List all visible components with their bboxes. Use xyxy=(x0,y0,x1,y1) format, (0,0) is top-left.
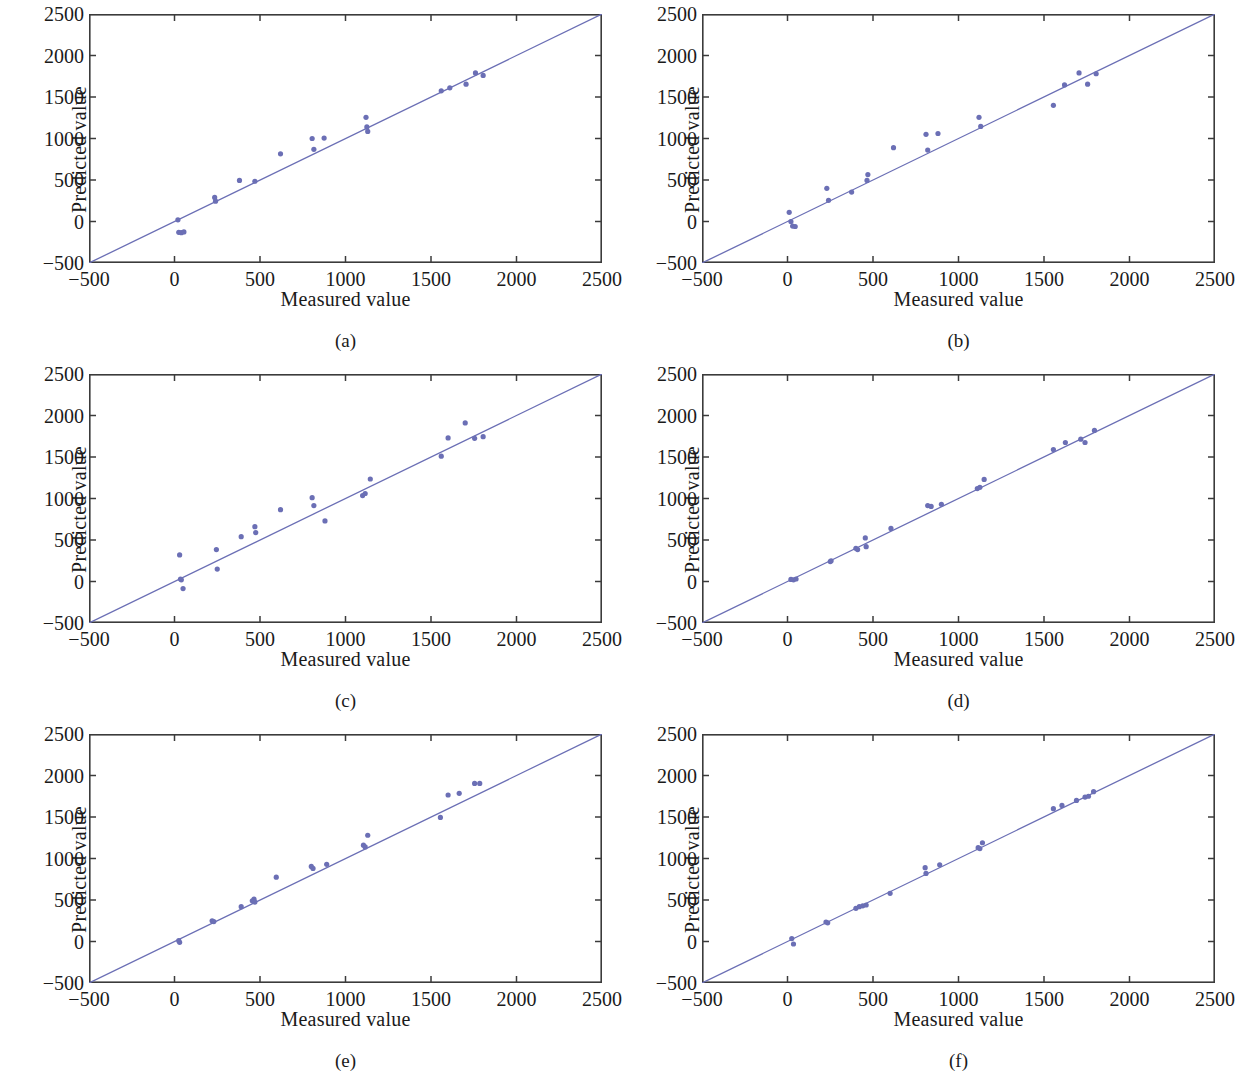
data-point xyxy=(324,862,329,867)
data-point xyxy=(1051,447,1056,452)
data-point xyxy=(211,919,216,924)
data-point xyxy=(937,862,942,867)
data-point xyxy=(457,791,462,796)
plot-area-b xyxy=(702,14,1215,263)
y-tick-label: 0 xyxy=(74,570,84,593)
y-tick-label: 1500 xyxy=(44,806,84,829)
data-point xyxy=(473,70,478,75)
data-point xyxy=(481,434,486,439)
y-tick-label: 2500 xyxy=(44,723,84,746)
y-tick-label: 1500 xyxy=(657,806,697,829)
y-tick-label: 1500 xyxy=(657,86,697,109)
plot-area-d xyxy=(702,374,1215,623)
panel-caption-c: (c) xyxy=(89,690,602,712)
x-axis-label-c: Measured value xyxy=(89,648,602,671)
data-point xyxy=(929,504,934,509)
y-tick-label: 2000 xyxy=(657,44,697,67)
data-point xyxy=(472,436,477,441)
y-tick-label: 500 xyxy=(667,529,697,552)
data-point xyxy=(864,544,869,549)
y-tick-label: 1000 xyxy=(44,847,84,870)
y-tick-labels-b: 25002000150010005000−500 xyxy=(613,14,697,263)
y-tick-labels-e: 25002000150010005000−500 xyxy=(0,734,84,983)
y-tick-label: 1000 xyxy=(657,847,697,870)
data-point xyxy=(447,85,452,90)
data-point xyxy=(788,219,793,224)
identity-reference-line xyxy=(702,14,1215,263)
data-point xyxy=(1062,82,1067,87)
data-point xyxy=(855,547,860,552)
data-point xyxy=(787,210,792,215)
data-point xyxy=(864,902,869,907)
data-point xyxy=(977,485,982,490)
data-point xyxy=(793,224,798,229)
y-tick-labels-d: 25002000150010005000−500 xyxy=(613,374,697,623)
x-axis-label-e: Measured value xyxy=(89,1008,602,1031)
data-point xyxy=(213,199,218,204)
y-tick-label: 1000 xyxy=(44,127,84,150)
data-point xyxy=(477,781,482,786)
data-point xyxy=(177,940,182,945)
plot-area-c xyxy=(89,374,602,623)
data-point xyxy=(311,503,316,508)
data-point xyxy=(793,576,798,581)
y-tick-label: 2000 xyxy=(657,764,697,787)
data-point xyxy=(888,891,893,896)
data-point xyxy=(865,172,870,177)
data-point xyxy=(923,865,928,870)
data-point xyxy=(1085,82,1090,87)
data-point xyxy=(982,477,987,482)
data-point xyxy=(939,502,944,507)
y-tick-label: 2000 xyxy=(44,44,84,67)
data-point xyxy=(849,189,854,194)
data-point xyxy=(310,495,315,500)
panel-caption-a: (a) xyxy=(89,330,602,352)
panel-d: Predicted value 25002000150010005000−500… xyxy=(613,360,1226,720)
data-point xyxy=(923,871,928,876)
data-point xyxy=(322,518,327,523)
data-point xyxy=(252,899,257,904)
panel-caption-f: (f) xyxy=(702,1050,1215,1072)
data-point xyxy=(214,547,219,552)
y-tick-label: 1000 xyxy=(657,127,697,150)
y-tick-label: 500 xyxy=(54,169,84,192)
data-point xyxy=(463,420,468,425)
data-point xyxy=(322,135,327,140)
data-point xyxy=(978,124,983,129)
data-point xyxy=(439,454,444,459)
y-tick-label: 500 xyxy=(54,529,84,552)
data-point xyxy=(888,526,893,531)
data-point xyxy=(935,131,940,136)
panel-b: Predicted value 25002000150010005000−500… xyxy=(613,0,1226,360)
identity-reference-line xyxy=(89,14,602,263)
data-point xyxy=(365,129,370,134)
data-point xyxy=(1092,428,1097,433)
data-point xyxy=(239,534,244,539)
data-point xyxy=(179,577,184,582)
y-tick-label: 1500 xyxy=(657,446,697,469)
data-point xyxy=(177,552,182,557)
data-point xyxy=(1051,806,1056,811)
data-point xyxy=(1059,803,1064,808)
panel-e: Predicted value 25002000150010005000−500… xyxy=(0,720,613,1081)
data-point xyxy=(826,198,831,203)
y-tick-label: 1000 xyxy=(657,487,697,510)
plot-area-e xyxy=(89,734,602,983)
data-point xyxy=(311,147,316,152)
data-point xyxy=(252,524,257,529)
data-point xyxy=(976,115,981,120)
data-point xyxy=(472,781,477,786)
y-tick-label: 500 xyxy=(667,889,697,912)
data-point xyxy=(463,82,468,87)
data-point xyxy=(438,815,443,820)
data-point xyxy=(977,846,982,851)
y-tick-label: 0 xyxy=(687,930,697,953)
x-axis-label-a: Measured value xyxy=(89,288,602,311)
data-point xyxy=(239,904,244,909)
y-tick-label: 500 xyxy=(667,169,697,192)
y-tick-label: 2000 xyxy=(44,404,84,427)
data-point xyxy=(439,88,444,93)
x-axis-label-d: Measured value xyxy=(702,648,1215,671)
data-point xyxy=(1051,103,1056,108)
data-point xyxy=(789,936,794,941)
